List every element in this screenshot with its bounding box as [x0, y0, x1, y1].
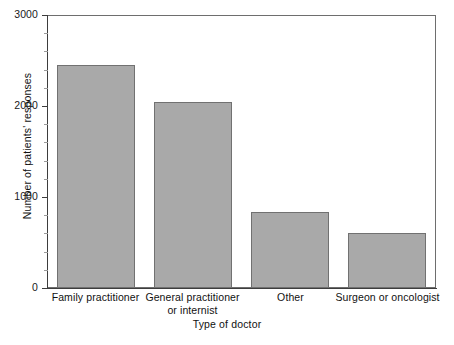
y-axis-minor-tick — [44, 252, 48, 253]
y-axis-minor-tick — [44, 270, 48, 271]
y-axis-tick — [42, 197, 48, 198]
y-axis-minor-tick — [44, 51, 48, 52]
x-axis-tick-label: Family practitioner — [41, 291, 150, 304]
bar — [154, 102, 232, 288]
bar — [348, 233, 426, 288]
x-axis-line — [47, 288, 437, 289]
y-axis-minor-tick — [44, 88, 48, 89]
y-axis-minor-tick — [44, 161, 48, 162]
bar — [57, 65, 135, 288]
y-axis-title: Number of patients' responses — [21, 56, 33, 236]
x-axis-title: Type of doctor — [0, 318, 454, 330]
y-axis-tick-label: 3000 — [14, 9, 38, 20]
y-axis-line — [47, 15, 48, 289]
y-axis-minor-tick — [44, 179, 48, 180]
y-axis-tick — [42, 106, 48, 107]
x-axis-tick-label: Other — [236, 291, 345, 304]
y-axis-tick-label: 0 — [32, 282, 38, 293]
x-axis-tick-label: Surgeon or oncologist — [333, 291, 442, 304]
y-axis-minor-tick — [44, 33, 48, 34]
y-axis-minor-tick — [44, 70, 48, 71]
bar-chart-figure: 0100020003000 Family practitionerGeneral… — [0, 0, 454, 345]
y-axis-minor-tick — [44, 142, 48, 143]
y-axis-minor-tick — [44, 215, 48, 216]
x-axis-tick-label: General practitioner or internist — [138, 291, 247, 316]
bar — [251, 212, 329, 288]
y-axis-minor-tick — [44, 124, 48, 125]
y-axis-tick — [42, 15, 48, 16]
y-axis-tick — [42, 288, 48, 289]
y-axis-minor-tick — [44, 233, 48, 234]
